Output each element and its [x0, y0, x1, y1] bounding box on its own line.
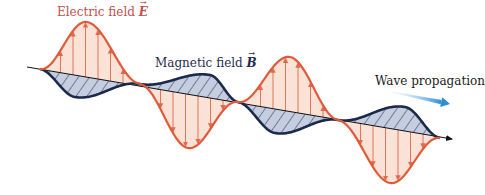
electric-field-label: Electric field E — [57, 6, 148, 18]
magnetic-field-label: Magnetic field B — [155, 57, 257, 69]
vector-b-symbol: B — [247, 56, 257, 70]
wave-propagation-label: Wave propagation — [375, 75, 485, 87]
vector-e-symbol: E — [139, 5, 148, 19]
propagation-arrow-icon — [392, 92, 450, 108]
